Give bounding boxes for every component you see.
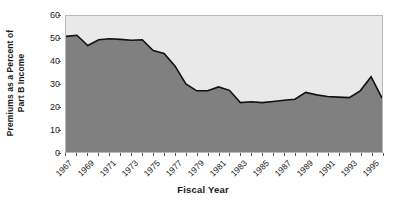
x-tick-label: 1967 bbox=[50, 158, 74, 182]
x-tick-label: 1979 bbox=[182, 158, 206, 182]
x-tick-mark bbox=[98, 153, 99, 156]
x-tick-mark bbox=[65, 153, 66, 156]
x-tick-mark bbox=[317, 153, 318, 156]
x-tick-mark bbox=[284, 153, 285, 156]
x-tick-mark bbox=[219, 153, 220, 156]
x-tick-mark bbox=[295, 153, 296, 156]
x-tick-mark bbox=[339, 153, 340, 156]
x-axis-title: Fiscal Year bbox=[0, 184, 406, 195]
x-tick-mark bbox=[76, 153, 77, 156]
x-tick-mark bbox=[350, 153, 351, 156]
x-tick-mark bbox=[131, 153, 132, 156]
x-tick-label: 1975 bbox=[138, 158, 162, 182]
x-tick-label: 1971 bbox=[94, 158, 118, 182]
x-axis-tick-labels: 1967196919711973197519771979198119831985… bbox=[0, 0, 406, 208]
x-tick-mark bbox=[197, 153, 198, 156]
x-tick-mark bbox=[109, 153, 110, 156]
x-tick-label: 1973 bbox=[116, 158, 140, 182]
x-tick-mark bbox=[208, 153, 209, 156]
x-tick-mark bbox=[186, 153, 187, 156]
x-tick-label: 1987 bbox=[269, 158, 293, 182]
x-tick-mark bbox=[328, 153, 329, 156]
x-tick-label: 1995 bbox=[357, 158, 381, 182]
x-tick-mark bbox=[306, 153, 307, 156]
x-tick-label: 1993 bbox=[335, 158, 359, 182]
x-tick-mark bbox=[229, 153, 230, 156]
x-tick-mark bbox=[240, 153, 241, 156]
x-tick-mark bbox=[383, 153, 384, 156]
x-tick-label: 1989 bbox=[291, 158, 315, 182]
x-tick-mark bbox=[142, 153, 143, 156]
x-tick-label: 1985 bbox=[247, 158, 271, 182]
x-tick-mark bbox=[153, 153, 154, 156]
x-tick-label: 1991 bbox=[313, 158, 337, 182]
x-tick-mark bbox=[251, 153, 252, 156]
x-tick-mark bbox=[262, 153, 263, 156]
x-tick-mark bbox=[361, 153, 362, 156]
x-tick-mark bbox=[273, 153, 274, 156]
x-tick-label: 1983 bbox=[225, 158, 249, 182]
x-tick-label: 1981 bbox=[204, 158, 228, 182]
x-tick-mark bbox=[372, 153, 373, 156]
x-tick-mark bbox=[87, 153, 88, 156]
x-tick-label: 1977 bbox=[160, 158, 184, 182]
x-tick-mark bbox=[164, 153, 165, 156]
x-tick-mark bbox=[175, 153, 176, 156]
x-tick-mark bbox=[120, 153, 121, 156]
x-tick-label: 1969 bbox=[72, 158, 96, 182]
area-chart: Premiums as a Percent of Part B Income 0… bbox=[0, 0, 406, 208]
